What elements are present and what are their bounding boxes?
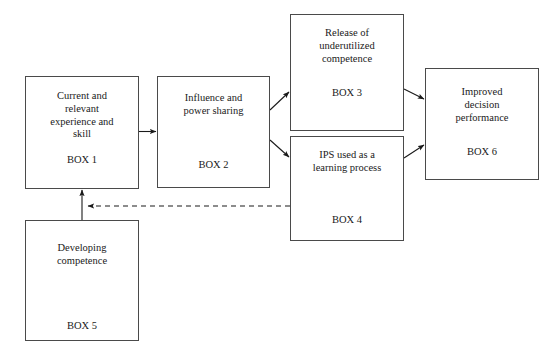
node-box2-label: Influence and power sharing xyxy=(184,92,244,118)
edge-box2-to-box4 xyxy=(270,140,289,157)
node-box5[interactable]: Developing competence BOX 5 xyxy=(25,220,139,341)
node-box1-label: Current and relevant experience and skil… xyxy=(50,90,113,141)
node-box1[interactable]: Current and relevant experience and skil… xyxy=(25,76,139,189)
flow-diagram: Current and relevant experience and skil… xyxy=(0,0,553,351)
node-box2[interactable]: Influence and power sharing BOX 2 xyxy=(157,76,270,188)
edge-box3-to-box6 xyxy=(404,89,424,99)
node-box4[interactable]: IPS used as a learning process BOX 4 xyxy=(290,136,404,241)
node-box4-label: IPS used as a learning process xyxy=(313,149,382,175)
node-box6-tag: BOX 6 xyxy=(467,146,497,157)
node-box2-tag: BOX 2 xyxy=(198,159,228,170)
edge-box2-to-box3 xyxy=(270,92,289,110)
node-box3[interactable]: Release of underutilized competence BOX … xyxy=(290,14,404,131)
edge-box4-to-box6 xyxy=(404,145,424,158)
node-box5-tag: BOX 5 xyxy=(67,320,97,331)
node-box5-label: Developing competence xyxy=(57,242,107,268)
node-box3-tag: BOX 3 xyxy=(332,87,362,98)
node-box3-label: Release of underutilized competence xyxy=(319,27,374,65)
node-box1-tag: BOX 1 xyxy=(67,154,97,165)
node-box6-label: Improved decision performance xyxy=(455,86,508,124)
node-box4-tag: BOX 4 xyxy=(332,214,362,225)
node-box6[interactable]: Improved decision performance BOX 6 xyxy=(425,68,539,180)
